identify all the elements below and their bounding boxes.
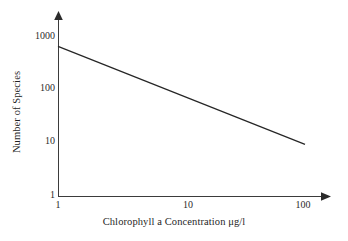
x-axis-arrow-right-icon [321,192,331,201]
y-axis-title-wrapper: Number of Species [7,52,25,172]
series-line-species-richness [58,46,305,144]
y-tick-label-100: 100 [22,83,55,93]
x-tick-label-100: 100 [289,200,317,210]
x-tick-label-10: 10 [174,200,202,210]
y-tick-label-1: 1 [22,190,55,200]
x-tick-label-1: 1 [44,200,72,210]
x-axis-title: Chlorophyll a Concentration μg/l [0,216,348,227]
chart-figure: 1000 100 10 1 1 10 100 Chlorophyll a Con… [0,0,348,241]
y-axis-arrow-up-icon [54,11,63,20]
y-tick-label-1000: 1000 [22,31,55,41]
y-axis-title: Number of Species [11,71,22,153]
y-tick-label-10: 10 [22,136,55,146]
